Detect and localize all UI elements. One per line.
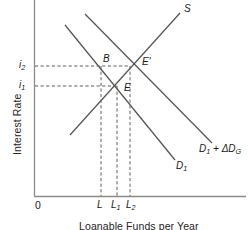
x-tick-label-L1: L1 [111, 200, 121, 210]
x-tick-base-L2: L [126, 199, 132, 210]
point-label-E-prime: E′ [142, 57, 151, 67]
origin-label: 0 [35, 200, 41, 211]
x-tick-base-L: L [97, 199, 103, 210]
demand-curve-shifted-label: D1 + ΔDG [199, 144, 241, 154]
x-tick-label-L2: L2 [126, 200, 136, 210]
demand-curve-initial [65, 25, 175, 160]
diagram-canvas [0, 0, 249, 230]
x-tick-sub-L1: 1 [117, 203, 121, 212]
y-tick-label-i2: i2 [19, 60, 25, 70]
point-label-B-text: B [103, 53, 110, 64]
x-tick-sub-L2: 2 [132, 203, 136, 212]
y-tick-label-i1: i1 [19, 80, 25, 90]
demand-initial-sub: 1 [183, 164, 187, 173]
demand-curve-initial-label: D1 [176, 161, 187, 171]
x-axis-title: Loanable Funds per Year [79, 221, 199, 230]
point-label-E-prime-text: E [142, 56, 149, 67]
loanable-funds-diagram: Interest Rate Loanable Funds per Year 0 … [0, 0, 249, 230]
supply-curve [70, 13, 180, 135]
point-label-E-text: E [124, 82, 131, 93]
x-tick-base-L1: L [111, 199, 117, 210]
demand-curve-shifted [85, 14, 212, 143]
demand-shifted-delta: + ΔD [210, 143, 235, 154]
y-tick-sub-i1: 1 [21, 83, 25, 92]
demand-shifted-sub: 1 [206, 147, 210, 156]
point-label-B: B [103, 54, 110, 64]
supply-curve-label-text: S [184, 3, 191, 14]
y-axis-title: Interest Rate [12, 94, 23, 155]
point-label-E: E [124, 83, 131, 93]
supply-curve-label: S [184, 4, 191, 14]
demand-shifted-extra-sub: G [236, 147, 242, 156]
y-tick-sub-i2: 2 [21, 63, 25, 72]
prime-mark: ′ [149, 56, 151, 67]
x-tick-label-L: L [97, 200, 103, 210]
